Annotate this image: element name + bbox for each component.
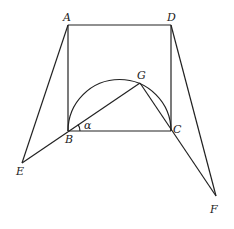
- label-alpha: α: [84, 119, 92, 132]
- segment-eg: [22, 83, 140, 163]
- segment-df: [171, 25, 216, 196]
- angle-alpha-arc: [78, 124, 80, 131]
- segment-gf: [140, 83, 216, 196]
- label-c: C: [173, 123, 182, 136]
- label-e: E: [15, 165, 24, 178]
- label-f: F: [209, 203, 218, 216]
- label-g: G: [137, 69, 146, 82]
- segment-ae: [22, 25, 68, 163]
- label-d: D: [166, 11, 176, 24]
- label-b: B: [64, 133, 73, 146]
- label-a: A: [62, 11, 71, 24]
- geometry-diagram: A D G α B C E F: [0, 0, 234, 229]
